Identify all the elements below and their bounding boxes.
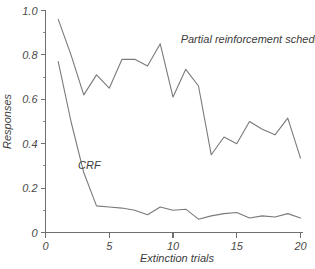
svg-text:0: 0 (31, 227, 38, 239)
svg-text:0.6: 0.6 (22, 93, 38, 105)
svg-text:0: 0 (42, 240, 49, 252)
chart-figure: 00.20.40.60.81.0 05101520 Partial reinfo… (0, 0, 315, 269)
series-label-partial-reinforcement: Partial reinforcement schedule (181, 33, 315, 45)
line-chart-canvas: 00.20.40.60.81.0 05101520 Partial reinfo… (0, 0, 315, 269)
svg-text:5: 5 (106, 240, 113, 252)
series-line-crf (58, 62, 300, 220)
y-axis-tick-labels: 00.20.40.60.81.0 (22, 5, 38, 239)
x-axis-major-ticks (46, 233, 301, 238)
series-label-crf: CRF (78, 159, 102, 171)
y-axis-title: Responses (1, 93, 13, 149)
x-axis-tick-labels: 05101520 (42, 240, 307, 252)
svg-text:0.2: 0.2 (22, 182, 37, 194)
svg-text:20: 20 (293, 240, 307, 252)
svg-text:0.8: 0.8 (22, 49, 38, 61)
svg-text:1.0: 1.0 (22, 5, 38, 17)
x-axis-title: Extinction trials (140, 252, 214, 264)
svg-text:15: 15 (231, 240, 244, 252)
svg-text:10: 10 (167, 240, 180, 252)
svg-text:0.4: 0.4 (22, 138, 37, 150)
